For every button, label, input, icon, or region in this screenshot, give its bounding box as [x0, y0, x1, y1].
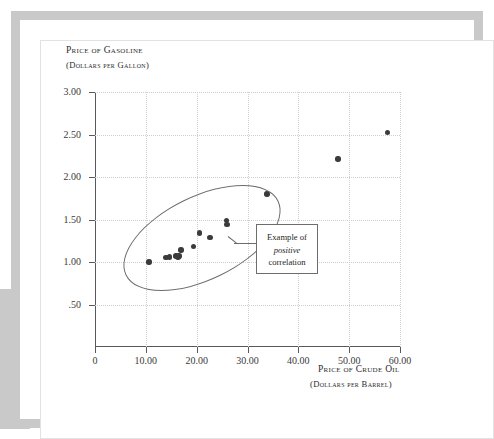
- tick-x: [95, 347, 96, 353]
- tick-y: [89, 305, 95, 306]
- y-tick-label: 1.50: [41, 214, 81, 225]
- y-tick-label: .50: [41, 299, 81, 310]
- scatter-plot-figure: Price of Gasoline (Dollars per Gallon) P…: [0, 0, 494, 439]
- tick-y: [89, 92, 95, 93]
- gridline-vertical: [146, 92, 147, 347]
- x-tick-label: 60.00: [376, 355, 424, 366]
- x-tick-label: 20.00: [173, 355, 221, 366]
- x-tick-label: 50.00: [325, 355, 373, 366]
- tick-y: [89, 135, 95, 136]
- y-axis-title-line1: Price of Gasoline: [66, 45, 143, 55]
- gridline-vertical: [349, 92, 350, 347]
- annotation-line2: positive: [257, 244, 317, 257]
- tick-y: [89, 262, 95, 263]
- tick-x: [298, 347, 299, 353]
- x-tick-label: 10.00: [122, 355, 170, 366]
- tick-x: [197, 347, 198, 353]
- x-axis-title-line2: (Dollars per Barrel): [310, 379, 392, 389]
- tick-x: [146, 347, 147, 353]
- tick-x: [400, 347, 401, 353]
- x-tick-label: 0: [71, 355, 119, 366]
- x-tick-label: 40.00: [274, 355, 322, 366]
- tick-x: [349, 347, 350, 353]
- y-tick-label: 2.50: [41, 129, 81, 140]
- annotation-line1: Example of: [257, 231, 317, 244]
- gridline-vertical: [298, 92, 299, 347]
- annotation-line3: correlation: [257, 256, 317, 269]
- tick-y: [89, 177, 95, 178]
- data-point: [335, 156, 340, 161]
- annotation-callout-box: Example of positive correlation: [256, 224, 318, 274]
- y-axis-title-line2: (Dollars per Gallon): [66, 60, 149, 70]
- y-tick-label: 3.00: [41, 86, 81, 97]
- tick-x: [248, 347, 249, 353]
- gridline-vertical: [400, 92, 401, 347]
- y-tick-label: 2.00: [41, 171, 81, 182]
- y-tick-label: 1.00: [41, 256, 81, 267]
- x-tick-label: 30.00: [224, 355, 272, 366]
- plot-area: [95, 92, 400, 347]
- tick-y: [89, 220, 95, 221]
